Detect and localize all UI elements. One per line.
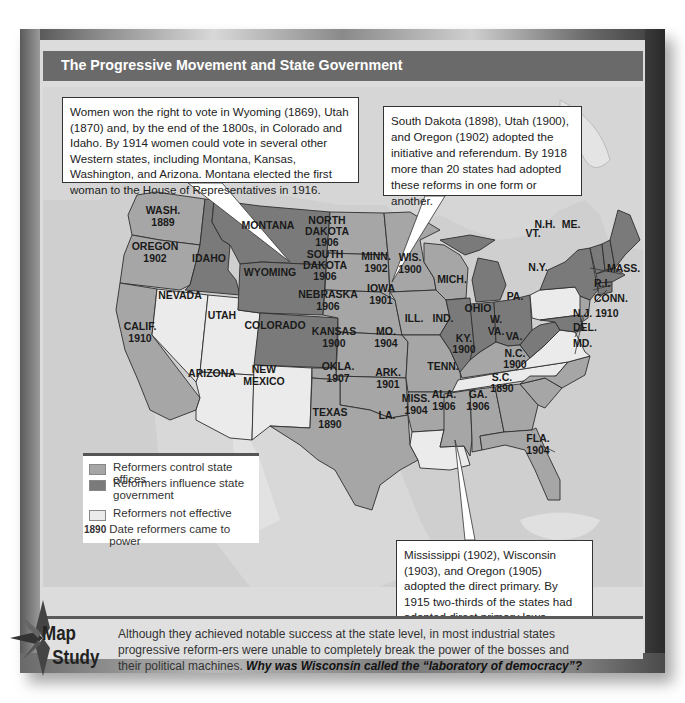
label-okla-year: 1907 (326, 372, 350, 384)
label-oregon-year: 1902 (143, 252, 167, 264)
label-montana: MONTANA (242, 219, 295, 231)
label-ark: ARK. (375, 366, 401, 378)
label-newmexico: NEW (252, 363, 277, 375)
label-ga: GA. (469, 388, 488, 400)
label-ga-year: 1906 (466, 400, 490, 412)
legend-item-date: 1890 Date reformers came to power (84, 523, 259, 547)
label-wash: WASH. (146, 204, 181, 216)
map-study-question: Why was Wisconsin called the “laboratory… (246, 659, 582, 673)
label-del: DEL. (573, 321, 597, 333)
badge-study-label: Study (52, 646, 100, 669)
label-kansas: KANSAS (312, 325, 356, 337)
label-miss-year: 1904 (404, 404, 428, 416)
frame-left-bevel (20, 29, 40, 673)
legend-swatch-influence (89, 480, 106, 491)
label-ill: ILL. (405, 312, 424, 324)
label-fla: FLA. (526, 432, 549, 444)
badge-map-label: Map (42, 622, 76, 645)
label-kansas-year: 1900 (322, 337, 346, 349)
label-nj: N.J. 1910 (573, 307, 619, 319)
legend-swatch-not-effective (89, 510, 106, 521)
label-nevada: NEVADA (158, 289, 202, 301)
label-tenn: TENN. (427, 360, 459, 372)
label-mass: MASS. (607, 262, 640, 274)
label-texas-year: 1890 (318, 418, 342, 430)
label-la: LA. (379, 409, 396, 421)
label-md: MD. (573, 337, 592, 349)
callout-primary-text: Mississippi (1902), Wisconsin (1903), an… (404, 547, 585, 625)
label-nebraska-year: 1906 (316, 300, 340, 312)
label-iowa: IOWA (367, 282, 395, 294)
label-mich: MICH. (437, 273, 467, 285)
label-ny: N.Y. (528, 261, 547, 273)
label-idaho: IDAHO (192, 252, 226, 264)
map-study-badge: Map Study (8, 598, 108, 678)
label-calif: CALIF. (124, 320, 157, 332)
label-ohio: OHIO (465, 302, 492, 314)
label-ky-year: 1900 (452, 343, 476, 355)
label-ri: R.I. (594, 277, 610, 289)
label-okla: OKLA. (322, 360, 355, 372)
label-wva-2: VA. (488, 325, 505, 337)
label-me: ME. (562, 218, 581, 230)
callout-initiative: South Dakota (1898), Utah (1900), and Or… (383, 106, 582, 196)
label-ind: IND. (433, 312, 454, 324)
label-wis-year: 1900 (398, 263, 422, 275)
frame-right-bevel (645, 29, 665, 673)
callout-suffrage: Women won the right to vote in Wyoming (… (62, 97, 359, 183)
label-wis: WIS. (399, 251, 422, 263)
label-mo: MO. (376, 325, 396, 337)
label-ala: ALA. (432, 388, 457, 400)
legend-item-influence: Reformers influence state government (89, 477, 254, 501)
label-iowa-year: 1901 (369, 294, 393, 306)
label-wyoming: WYOMING (244, 266, 297, 278)
label-ala-year: 1906 (432, 400, 456, 412)
label-conn: CONN. (594, 292, 628, 304)
label-nc-year: 1900 (503, 358, 527, 370)
label-sc-year: 1890 (490, 382, 514, 394)
label-nebraska: NEBRASKA (298, 288, 358, 300)
label-ark-year: 1901 (376, 378, 400, 390)
callout-initiative-text: South Dakota (1898), Utah (1900), and Or… (391, 113, 574, 209)
map-study-text: Although they achieved notable success a… (118, 626, 588, 674)
label-oregon: OREGON (132, 240, 179, 252)
label-fla-year: 1904 (526, 444, 550, 456)
label-wva: W. (490, 313, 502, 325)
label-colorado: COLORADO (244, 319, 305, 331)
title-bar: The Progressive Movement and State Gover… (43, 51, 643, 81)
compass-star-icon: Map Study (8, 598, 108, 678)
label-va: VA. (506, 330, 523, 342)
label-calif-year: 1910 (128, 332, 152, 344)
label-minn: MINN. (361, 250, 391, 262)
label-wash-year: 1889 (151, 216, 175, 228)
state-mich (472, 258, 506, 302)
legend-date-sample: 1890 (84, 524, 106, 535)
legend-item-not-effective: Reformers not effective (89, 507, 232, 521)
callout-primary: Mississippi (1902), Wisconsin (1903), an… (396, 540, 593, 620)
label-utah: UTAH (208, 309, 236, 321)
label-nd-year: 1906 (315, 236, 339, 248)
label-newmexico-2: MEXICO (243, 375, 284, 387)
label-nh: N.H. (535, 218, 556, 230)
map-legend: Reformers control state offices Reformer… (83, 453, 259, 543)
callout-suffrage-text: Women won the right to vote in Wyoming (… (70, 104, 351, 197)
page-title: The Progressive Movement and State Gover… (61, 56, 403, 74)
label-pa: PA. (507, 290, 524, 302)
label-texas: TEXAS (312, 406, 347, 418)
label-arizona: ARIZONA (188, 367, 236, 379)
label-sd-year: 1906 (313, 270, 337, 282)
legend-swatch-control (89, 464, 106, 475)
label-mo-year: 1904 (374, 337, 398, 349)
label-minn-year: 1902 (364, 262, 388, 274)
label-miss: MISS. (402, 392, 431, 404)
